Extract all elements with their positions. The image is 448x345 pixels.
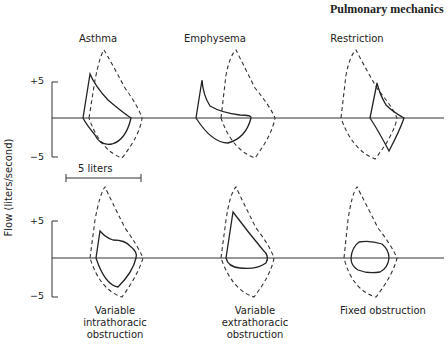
top-y-axis bbox=[52, 82, 444, 157]
variable-extrathoracic-loops bbox=[221, 187, 274, 297]
intrathoracic-loop bbox=[96, 231, 136, 287]
restriction-loops bbox=[341, 50, 404, 159]
emphysema-loop bbox=[196, 80, 251, 143]
fixed-obstruction-loop bbox=[351, 241, 389, 272]
emphysema-loops bbox=[196, 50, 275, 158]
scale-bar bbox=[66, 174, 141, 182]
variable-intrathoracic-loops bbox=[90, 187, 143, 297]
flow-volume-diagram bbox=[0, 0, 448, 345]
fixed-obstruction-loops bbox=[344, 187, 397, 297]
restriction-loop bbox=[370, 83, 404, 151]
normal-loop bbox=[221, 50, 275, 158]
normal-loop bbox=[89, 50, 142, 158]
extrathoracic-loop bbox=[226, 212, 267, 268]
asthma-loops bbox=[83, 50, 142, 158]
normal-loop bbox=[341, 50, 397, 159]
